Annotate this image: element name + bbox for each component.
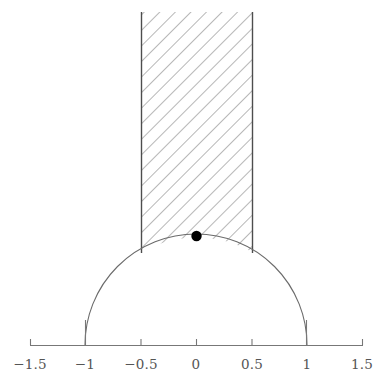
x-axis xyxy=(30,320,363,346)
hatch-fill xyxy=(141,12,253,257)
hatched-region xyxy=(141,12,253,257)
apex-dot xyxy=(191,231,201,241)
math-figure-canvas: −1.5 −1 −0.5 0 0.5 1 1.5 xyxy=(0,0,383,390)
tick-label--1.5: −1.5 xyxy=(13,356,47,372)
tick-label--0.5: −0.5 xyxy=(124,356,158,372)
figure-svg xyxy=(0,0,383,390)
unit-semicircle-arc xyxy=(85,234,307,345)
tick-label-0: 0 xyxy=(192,356,201,372)
tick-label-1.5: 1.5 xyxy=(351,356,373,372)
tick-label-1: 1 xyxy=(303,356,312,372)
tick-label-0.5: 0.5 xyxy=(241,356,263,372)
tick-label--1: −1 xyxy=(75,356,95,372)
